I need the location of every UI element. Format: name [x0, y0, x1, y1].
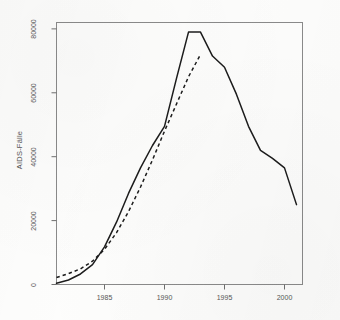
- y-axis-tick-label: 80000: [16, 23, 50, 35]
- plot-area: [0, 0, 340, 320]
- x-axis-tick-label: 1985: [85, 294, 125, 301]
- x-axis-ticks: [105, 285, 285, 290]
- y-axis-tick-label: 20000: [16, 215, 50, 227]
- x-axis-tick-label: 1990: [145, 294, 185, 301]
- y-axis-tick-label: 0: [16, 279, 50, 291]
- y-axis-ticks: [52, 29, 57, 285]
- y-axis-tick-label: 60000: [16, 87, 50, 99]
- series-line-estimated: [57, 54, 201, 277]
- y-axis-tick-label: 40000: [16, 151, 50, 163]
- x-axis-tick-label: 2000: [265, 294, 305, 301]
- series-line-observed: [57, 32, 297, 283]
- x-axis-tick-label: 1995: [205, 294, 245, 301]
- figure-canvas: AIDS-Fälle 020000400006000080000 1985199…: [0, 0, 340, 320]
